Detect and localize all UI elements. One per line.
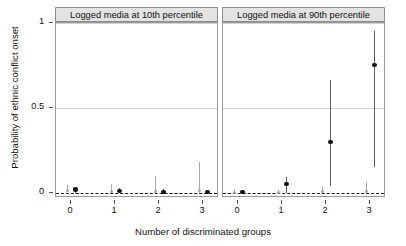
data-point bbox=[233, 191, 236, 194]
x-tick-mark bbox=[114, 200, 115, 204]
y-tick-label: 0 bbox=[18, 186, 44, 196]
data-point bbox=[110, 190, 113, 193]
panel-strip-label: Logged media at 90th percentile bbox=[222, 7, 385, 22]
gridline bbox=[56, 23, 217, 24]
data-point bbox=[240, 190, 244, 194]
panel-strip-label: Logged media at 10th percentile bbox=[55, 7, 218, 22]
gridline bbox=[223, 108, 384, 109]
confidence-interval-bar bbox=[374, 31, 375, 167]
y-tick-mark bbox=[49, 22, 53, 23]
x-tick-mark bbox=[325, 200, 326, 204]
plot-area bbox=[222, 22, 385, 197]
x-tick-label: 3 bbox=[192, 205, 212, 215]
x-tick-mark bbox=[281, 200, 282, 204]
plot-area bbox=[55, 22, 218, 197]
y-tick-mark bbox=[49, 107, 53, 108]
x-tick-label: 1 bbox=[104, 205, 124, 215]
data-point bbox=[328, 140, 332, 144]
chart-root: Probability of ethnic conflict onset Num… bbox=[0, 0, 406, 246]
zero-reference-line bbox=[223, 193, 384, 194]
x-tick-mark bbox=[158, 200, 159, 204]
x-tick-label: 3 bbox=[359, 205, 379, 215]
x-tick-label: 0 bbox=[60, 205, 80, 215]
data-point bbox=[73, 187, 77, 191]
x-tick-mark bbox=[369, 200, 370, 204]
confidence-interval-bar bbox=[199, 162, 200, 193]
data-point bbox=[284, 182, 288, 186]
y-tick-mark bbox=[49, 192, 53, 193]
confidence-interval-bar bbox=[330, 80, 331, 186]
data-point bbox=[117, 189, 121, 193]
y-tick-label: 0.5 bbox=[18, 101, 44, 111]
x-tick-mark bbox=[202, 200, 203, 204]
x-tick-label: 2 bbox=[148, 205, 168, 215]
gridline bbox=[223, 23, 384, 24]
data-point bbox=[372, 63, 376, 67]
y-axis-title: Probability of ethnic conflict onset bbox=[9, 0, 20, 198]
x-axis-title: Number of discriminated groups bbox=[0, 226, 406, 237]
data-point bbox=[277, 191, 280, 194]
gridline bbox=[56, 108, 217, 109]
data-point bbox=[205, 190, 209, 194]
y-tick-label: 1 bbox=[18, 16, 44, 26]
x-tick-mark bbox=[237, 200, 238, 204]
x-tick-label: 0 bbox=[227, 205, 247, 215]
x-tick-mark bbox=[70, 200, 71, 204]
zero-reference-line bbox=[56, 193, 217, 194]
x-tick-label: 2 bbox=[315, 205, 335, 215]
data-point bbox=[161, 190, 165, 194]
x-tick-label: 1 bbox=[271, 205, 291, 215]
